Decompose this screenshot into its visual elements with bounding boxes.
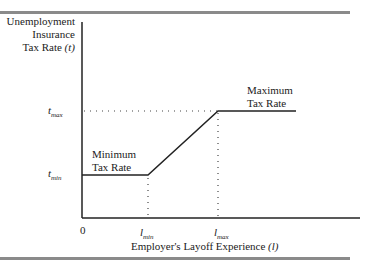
origin-tick: 0 bbox=[80, 224, 86, 237]
y-axis-label: Unemployment Insurance Tax Rate (t) bbox=[0, 15, 75, 54]
max-rate-annotation: Maximum Tax Rate bbox=[247, 84, 293, 110]
x-axis-label: Employer's Layoff Experience (l) bbox=[131, 240, 278, 253]
min-rate-annotation: Minimum Tax Rate bbox=[92, 148, 136, 174]
tmax-tick: tmax bbox=[48, 104, 63, 122]
tmin-tick: tmin bbox=[48, 167, 62, 185]
